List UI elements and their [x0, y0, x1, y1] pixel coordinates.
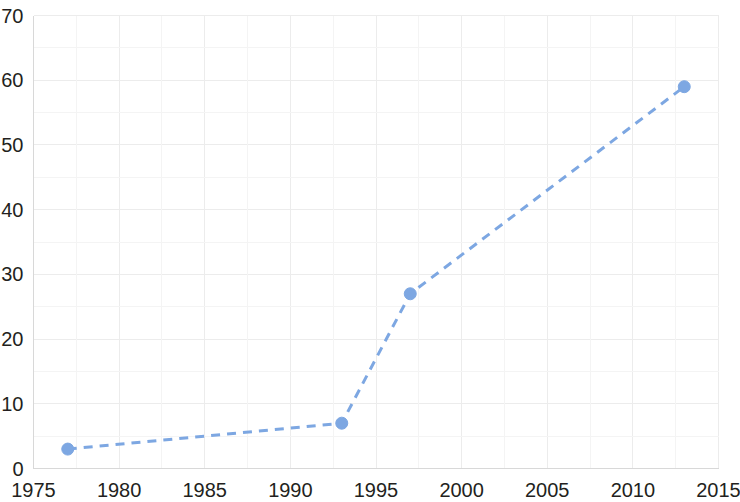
y-axis-tick-label: 60 — [0, 69, 24, 92]
x-axis-tick-label: 2010 — [611, 479, 656, 502]
y-axis-tick-label: 0 — [0, 457, 24, 480]
x-axis-tick-label: 2015 — [696, 479, 740, 502]
x-axis-tick-label: 1990 — [268, 479, 313, 502]
x-axis-tick-label: 2005 — [525, 479, 570, 502]
line-chart: 010203040506070 197519801985199019952000… — [0, 0, 740, 502]
y-axis-tick-label: 40 — [0, 198, 24, 221]
x-axis-tick-label: 1975 — [11, 479, 56, 502]
x-axis-tick-label: 1980 — [97, 479, 142, 502]
x-axis-tick-label: 1985 — [183, 479, 228, 502]
y-axis-tick-label: 50 — [0, 133, 24, 156]
y-axis-tick-label: 20 — [0, 328, 24, 351]
x-axis-tick-label: 2000 — [439, 479, 484, 502]
x-axis-tick-label: 1995 — [354, 479, 399, 502]
y-axis-tick-label: 30 — [0, 263, 24, 286]
plot-area — [0, 0, 740, 502]
y-axis-tick-label: 10 — [0, 392, 24, 415]
y-axis-tick-label: 70 — [0, 4, 24, 27]
